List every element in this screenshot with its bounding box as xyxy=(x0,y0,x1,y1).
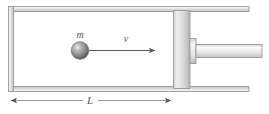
diagram-canvas: m v L xyxy=(0,0,269,114)
length-dimension-group: L xyxy=(11,94,171,106)
cylinder-bottom-wall xyxy=(9,87,250,92)
ball-group: m xyxy=(71,29,89,59)
length-label: L xyxy=(86,94,93,106)
velocity-label: v xyxy=(124,33,129,44)
velocity-arrow-group: v xyxy=(89,33,155,51)
cylinder-left-wall xyxy=(9,7,14,92)
piston-rod xyxy=(196,45,262,58)
mass-label: m xyxy=(76,29,83,40)
ball xyxy=(71,42,89,60)
piston-assembly xyxy=(174,11,263,89)
cylinder-top-wall xyxy=(9,7,250,12)
piston xyxy=(174,11,191,89)
physics-diagram-figure: m v L xyxy=(0,0,269,114)
piston-collar xyxy=(190,39,196,64)
